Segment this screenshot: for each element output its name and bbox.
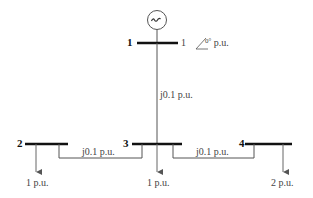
line-2-3-impedance: j0.1 p.u. (82, 146, 115, 157)
load-bus-3-value: 1 p.u. (147, 177, 170, 188)
diagram-canvas (0, 0, 313, 198)
load-bus-4-value: 2 p.u. (271, 177, 294, 188)
generator-icon (148, 11, 167, 30)
line-1-3-impedance: j0.1 p.u. (160, 89, 193, 100)
bus-2-label: 2 (17, 137, 23, 149)
bus-4-label: 4 (239, 137, 245, 149)
bus-3-label: 3 (123, 137, 129, 149)
bus-1-voltage: 10° p.u. (181, 37, 229, 48)
load-bus-2-value: 1 p.u. (26, 177, 49, 188)
line-3-4-impedance: j0.1 p.u. (196, 146, 229, 157)
bus-1-label: 1 (127, 36, 133, 48)
